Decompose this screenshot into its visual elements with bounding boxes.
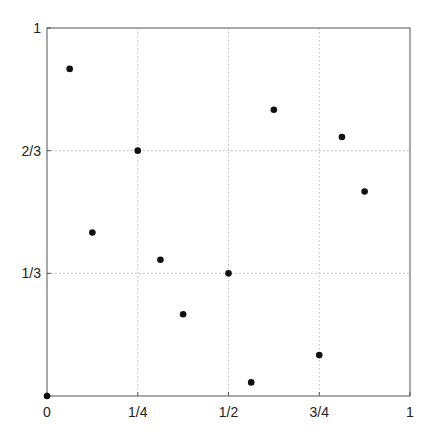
grid-lines xyxy=(47,28,410,396)
x-tick-label: 1/2 xyxy=(219,404,239,420)
scatter-chart: 01/41/23/41 1/32/31 xyxy=(0,0,431,433)
data-point xyxy=(225,270,232,277)
x-tick-label: 3/4 xyxy=(310,404,330,420)
x-tick-label: 0 xyxy=(43,404,51,420)
data-point xyxy=(157,256,164,263)
data-point xyxy=(339,134,346,141)
y-tick-label: 2/3 xyxy=(22,143,42,159)
x-tick-label: 1 xyxy=(406,404,414,420)
data-point xyxy=(248,379,255,386)
data-point xyxy=(66,66,73,73)
data-point xyxy=(134,147,141,154)
x-tick-label: 1/4 xyxy=(128,404,148,420)
data-point xyxy=(89,229,96,236)
y-tick-label: 1/3 xyxy=(22,265,42,281)
data-point xyxy=(180,311,187,318)
data-point xyxy=(271,106,278,113)
data-point xyxy=(361,188,368,195)
y-tick-label: 1 xyxy=(33,20,41,36)
data-point xyxy=(44,393,51,400)
data-point xyxy=(316,352,323,359)
